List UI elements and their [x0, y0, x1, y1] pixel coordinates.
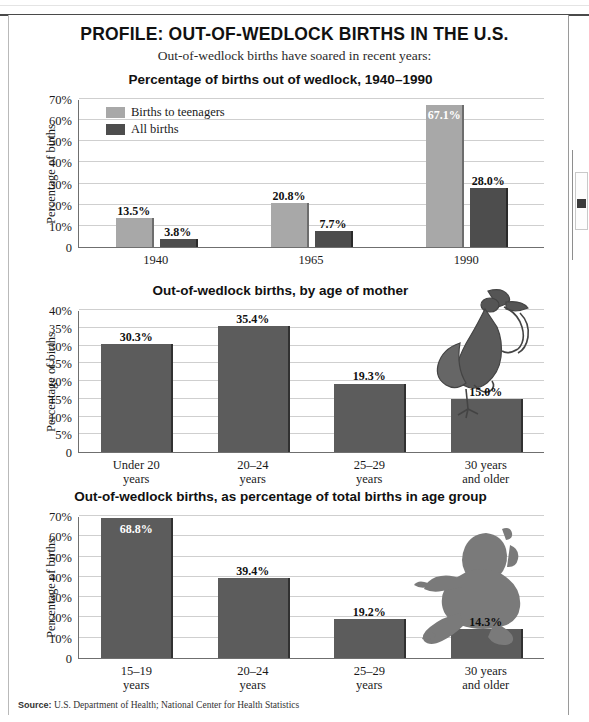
y-tick-label: 40% — [0, 156, 72, 171]
x-label-line: 20–24 — [198, 664, 308, 678]
source-note: Source: U.S. Department of Health; Natio… — [18, 700, 299, 710]
bar-value-label: 14.3% — [436, 615, 536, 630]
x-axis-category-label: 1990 — [411, 253, 521, 267]
bar-value-label: 68.8% — [86, 522, 186, 537]
page-subtitle: Out-of-wedlock births have soared in rec… — [0, 48, 589, 64]
chart-3: Out-of-wedlock births, as percentage of … — [0, 489, 561, 504]
x-label-line: 30 years — [431, 664, 541, 678]
legend-label: All births — [131, 122, 179, 137]
gridline — [79, 98, 544, 99]
gridline — [79, 140, 544, 141]
legend-item: Births to teenagers — [106, 105, 225, 120]
y-tick-label: 20% — [0, 611, 72, 626]
scrollbar[interactable] — [575, 172, 588, 230]
y-tick-label: 0 — [0, 241, 72, 256]
y-tick-label: 25% — [0, 357, 72, 372]
stork-with-bundle-icon — [430, 285, 540, 424]
bar-value-label: 19.2% — [319, 605, 419, 620]
x-label-line: 25–29 — [314, 458, 424, 472]
page-top-hairline — [0, 5, 589, 6]
sitting-baby-icon — [398, 527, 528, 651]
bar — [218, 326, 290, 452]
y-tick-label: 30% — [0, 591, 72, 606]
x-axis-category-label: 1965 — [256, 253, 366, 267]
page-title: PROFILE: OUT-OF-WEDLOCK BIRTHS IN THE U.… — [0, 24, 589, 45]
bar — [334, 619, 406, 658]
y-tick-label: 70% — [0, 510, 72, 525]
x-axis-category-label: 20–24years — [198, 458, 308, 487]
bar-value-label: 28.0% — [459, 174, 517, 189]
bar-value-label: 30.3% — [86, 330, 186, 345]
y-tick-label: 50% — [0, 135, 72, 150]
y-tick-label: 10% — [0, 631, 72, 646]
y-tick-label: 5% — [0, 428, 72, 443]
legend-label: Births to teenagers — [131, 105, 225, 120]
chart-1: Percentage of births out of wedlock, 194… — [0, 72, 561, 87]
y-tick-label: 30% — [0, 339, 72, 354]
legend-swatch — [106, 124, 125, 135]
y-tick-label: 60% — [0, 530, 72, 545]
x-axis-category-label: Under 20years — [81, 458, 191, 487]
x-axis-category-label: 20–24years — [198, 664, 308, 693]
bar-value-label: 39.4% — [203, 564, 303, 579]
bar — [334, 384, 406, 453]
x-label-line: years — [198, 472, 308, 486]
y-tick-label: 15% — [0, 392, 72, 407]
x-label-line: 30 years — [431, 458, 541, 472]
y-tick-label: 0 — [0, 446, 72, 461]
bar-value-label: 13.5% — [105, 204, 163, 219]
y-tick-label: 70% — [0, 93, 72, 108]
x-axis-category-label: 1940 — [101, 253, 211, 267]
x-label-line: years — [81, 472, 191, 486]
y-tick-label: 30% — [0, 177, 72, 192]
bar — [160, 239, 198, 247]
chart-title: Percentage of births out of wedlock, 194… — [0, 72, 561, 87]
x-label-line: years — [198, 678, 308, 692]
x-label-line: 15–19 — [81, 664, 191, 678]
window-edge-divider — [572, 150, 573, 260]
bar — [315, 231, 353, 247]
y-tick-label: 50% — [0, 550, 72, 565]
legend-swatch — [106, 107, 125, 118]
x-label-line: Under 20 — [81, 458, 191, 472]
bar — [470, 188, 508, 247]
bar-value-label: 20.8% — [260, 189, 318, 204]
x-label-line: 25–29 — [314, 664, 424, 678]
bar-value-label: 67.1% — [415, 108, 473, 123]
x-axis-category-label: 25–29years — [314, 664, 424, 693]
x-label-line: 20–24 — [198, 458, 308, 472]
x-axis-category-label: 15–19years — [81, 664, 191, 693]
x-label-line: years — [314, 472, 424, 486]
gridline — [79, 515, 544, 516]
source-label: Source: — [18, 700, 52, 710]
y-tick-label: 20% — [0, 375, 72, 390]
legend-item: All births — [106, 122, 179, 137]
y-tick-label: 60% — [0, 114, 72, 129]
bar — [101, 518, 173, 658]
x-axis-category-label: 25–29years — [314, 458, 424, 487]
chart-title: Out-of-wedlock births, as percentage of … — [0, 489, 561, 504]
x-axis-category-label: 30 yearsand older — [431, 664, 541, 693]
y-tick-label: 40% — [0, 304, 72, 319]
x-axis-category-label: 30 yearsand older — [431, 458, 541, 487]
bar-value-label: 3.8% — [149, 225, 207, 240]
source-text: U.S. Department of Health; National Cent… — [54, 700, 299, 710]
x-label-line: years — [81, 678, 191, 692]
bar-value-label: 19.3% — [319, 369, 419, 384]
scrollbar-thumb[interactable] — [577, 199, 586, 208]
x-label-line: and older — [431, 678, 541, 692]
gridline — [79, 161, 544, 162]
y-tick-label: 40% — [0, 570, 72, 585]
bar-value-label: 7.7% — [304, 217, 362, 232]
bar-value-label: 35.4% — [203, 312, 303, 327]
y-tick-label: 10% — [0, 410, 72, 425]
bar — [218, 578, 290, 658]
x-label-line: years — [314, 678, 424, 692]
y-tick-label: 35% — [0, 321, 72, 336]
y-tick-label: 20% — [0, 198, 72, 213]
bar-value-label: 15.0% — [436, 385, 536, 400]
x-label-line: and older — [431, 472, 541, 486]
y-tick-label: 10% — [0, 219, 72, 234]
bar — [101, 344, 173, 452]
y-tick-label: 0 — [0, 652, 72, 667]
